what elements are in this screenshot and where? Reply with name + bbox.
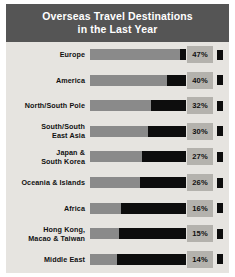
bar-row-label: Europe (6, 50, 90, 59)
bar-fill (90, 228, 119, 239)
bar-value-box: 15% (187, 225, 213, 242)
chart-header: Overseas Travel Destinations in the Last… (6, 4, 229, 42)
bar-row: Japan &South Korea27% (6, 145, 229, 168)
bar-fill (90, 75, 167, 86)
bar-row-label: Japan &South Korea (6, 148, 90, 166)
bar-row-label: South/SouthEast Asia (6, 122, 90, 140)
bar-row-label-line-1: Europe (60, 50, 85, 59)
bar-value-label: 16% (192, 204, 208, 213)
bar-row: North/South Pole32% (6, 94, 229, 117)
bar-fill (90, 100, 151, 111)
bar-fill (90, 151, 142, 162)
bar-value-box: 27% (187, 148, 213, 165)
row-end-marker-icon (217, 178, 223, 188)
bar-row: Africa16% (6, 197, 229, 220)
bar-row: Hong Kong,Macao & Taiwan15% (6, 222, 229, 245)
bar-row-label-line-2: Macao & Taiwan (6, 234, 85, 243)
row-end-marker-icon (217, 126, 223, 136)
bar-row: America40% (6, 69, 229, 92)
bar-value-label: 26% (192, 178, 208, 187)
bar-value-label: 32% (192, 101, 208, 110)
bar-track (90, 49, 186, 60)
bar-track (90, 151, 186, 162)
bar-track (90, 177, 186, 188)
bar-value-box: 14% (187, 251, 213, 268)
row-end-marker-icon (217, 203, 223, 213)
bar-value-box: 32% (187, 97, 213, 114)
bar-value-label: 27% (192, 152, 208, 161)
bar-value-label: 15% (192, 229, 208, 238)
bar-row-label: Middle East (6, 255, 90, 264)
bar-track (90, 126, 186, 137)
bar-value-box: 16% (187, 200, 213, 217)
bar-fill (90, 126, 148, 137)
chart-rows-area: Europe47%America40%North/South Pole32%So… (6, 42, 229, 273)
bar-fill (90, 49, 180, 60)
bar-row: Oceania & Islands26% (6, 171, 229, 194)
bar-row-label-line-1: Africa (64, 204, 85, 213)
row-end-marker-icon (217, 101, 223, 111)
bar-row-label-line-2: South Korea (6, 157, 85, 166)
bar-row-label: Africa (6, 204, 90, 213)
bar-track (90, 228, 186, 239)
bar-row-label: America (6, 76, 90, 85)
bar-value-label: 40% (192, 76, 208, 85)
chart-title: Overseas Travel Destinations in the Last… (42, 10, 193, 36)
bar-value-box: 40% (187, 72, 213, 89)
bar-row: Europe47% (6, 43, 229, 66)
bar-track (90, 203, 186, 214)
row-end-marker-icon (217, 75, 223, 85)
bar-track (90, 75, 186, 86)
chart-panel: Overseas Travel Destinations in the Last… (6, 4, 229, 273)
bar-track (90, 100, 186, 111)
bar-fill (90, 203, 121, 214)
bar-value-label: 30% (192, 127, 208, 136)
bar-value-box: 30% (187, 123, 213, 140)
bar-row-label: Hong Kong,Macao & Taiwan (6, 225, 90, 243)
bar-row-label-line-1: Middle East (44, 255, 85, 264)
chart-title-line-1: Overseas Travel Destinations (42, 10, 193, 22)
bar-row-label-line-2: East Asia (6, 131, 85, 140)
chart-title-line-2: in the Last Year (42, 23, 193, 36)
bar-row-label-line-1: South/South (41, 122, 85, 131)
bar-value-box: 47% (187, 46, 213, 63)
bar-value-label: 47% (192, 50, 208, 59)
bar-fill (90, 254, 117, 265)
bar-value-label: 14% (192, 255, 208, 264)
bar-row-label-line-1: Oceania & Islands (21, 178, 85, 187)
bar-row-label-line-1: Japan & (56, 148, 85, 157)
row-end-marker-icon (217, 229, 223, 239)
bar-row-label: Oceania & Islands (6, 178, 90, 187)
bar-row-label: North/South Pole (6, 101, 90, 110)
row-end-marker-icon (217, 254, 223, 264)
row-end-marker-icon (217, 50, 223, 60)
bar-row-label-line-1: Hong Kong, (43, 225, 85, 234)
row-end-marker-icon (217, 152, 223, 162)
bar-track (90, 254, 186, 265)
bar-row-label-line-1: America (56, 76, 85, 85)
bar-fill (90, 177, 140, 188)
bar-row-label-line-1: North/South Pole (25, 101, 85, 110)
bar-value-box: 26% (187, 174, 213, 191)
bar-row: South/SouthEast Asia30% (6, 120, 229, 143)
bar-row: Middle East14% (6, 248, 229, 271)
